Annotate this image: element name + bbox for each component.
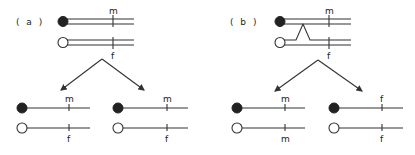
marker-label: m xyxy=(109,6,118,16)
filled-centromere-icon xyxy=(113,103,123,113)
filled-centromere-icon xyxy=(232,103,242,113)
open-centromere-icon xyxy=(275,38,285,48)
marker-label: f xyxy=(380,94,384,104)
arrow-icon xyxy=(318,60,362,91)
marker-label: f xyxy=(67,134,71,144)
arrow-icon xyxy=(102,59,144,90)
marker-label: m xyxy=(163,94,172,104)
marker-label: m xyxy=(281,94,290,104)
marker-label: f xyxy=(327,51,331,61)
open-centromere-icon xyxy=(232,123,242,133)
panel-a: ( a ) m f m f m f xyxy=(16,6,188,144)
marker-label: f xyxy=(111,51,115,61)
open-centromere-icon xyxy=(17,123,27,133)
open-centromere-icon xyxy=(58,38,68,48)
chromosome-diagram: ( a ) m f m f m f ( b ) xyxy=(0,0,415,155)
marker-label: m xyxy=(325,6,334,16)
panel-b: ( b ) m f m m f f xyxy=(230,6,403,144)
open-centromere-icon xyxy=(329,123,339,133)
open-centromere-icon xyxy=(113,123,123,133)
marker-label: m xyxy=(281,134,290,144)
panel-a-label: ( a ) xyxy=(16,17,44,27)
marker-label: f xyxy=(380,134,384,144)
filled-centromere-icon xyxy=(275,17,285,27)
filled-centromere-icon xyxy=(58,17,68,27)
marker-label: m xyxy=(65,94,74,104)
panel-b-label: ( b ) xyxy=(230,17,258,27)
arrow-icon xyxy=(61,59,102,90)
filled-centromere-icon xyxy=(329,103,339,113)
arrow-icon xyxy=(275,60,318,91)
marker-label: f xyxy=(165,134,169,144)
filled-centromere-icon xyxy=(17,103,27,113)
